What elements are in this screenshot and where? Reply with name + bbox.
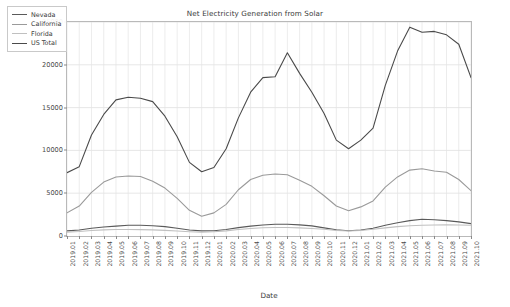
x-tick-label: 2020.12 — [351, 241, 358, 267]
x-tick-label: 2020.03 — [241, 241, 248, 267]
chart-title: Net Electricity Generation from Solar — [33, 9, 477, 18]
x-tick-label: 2020.06 — [278, 241, 285, 267]
x-tick-label: 2020.04 — [253, 241, 260, 267]
x-tick-mark — [128, 236, 129, 239]
legend-color-swatch — [12, 24, 27, 25]
x-tick-mark — [189, 236, 190, 239]
x-tick-label: 2020.08 — [302, 241, 309, 267]
x-tick-label: 2021.08 — [449, 241, 456, 267]
x-tick-label: 2021.02 — [375, 241, 382, 267]
series-lines — [67, 22, 471, 236]
y-tick-mark — [64, 107, 67, 108]
legend-item[interactable]: US Total — [12, 39, 61, 49]
x-tick-label: 2021.09 — [461, 241, 468, 267]
x-tick-mark — [140, 236, 141, 239]
legend-color-swatch — [12, 43, 27, 44]
x-tick-label: 2019.11 — [192, 241, 199, 267]
legend-item[interactable]: California — [12, 20, 61, 30]
x-tick-mark — [104, 236, 105, 239]
x-tick-mark — [153, 236, 154, 239]
legend-label: California — [31, 20, 61, 28]
x-tick-mark — [471, 236, 472, 239]
chart-legend: NevadaCaliforniaFloridaUS Total — [7, 6, 67, 52]
x-tick-mark — [177, 236, 178, 239]
x-tick-label: 2019.06 — [131, 241, 138, 267]
series-line — [67, 225, 471, 232]
x-tick-mark — [324, 236, 325, 239]
y-tick-label: 20000 — [42, 61, 63, 69]
series-line — [67, 27, 471, 173]
x-tick-label: 2019.02 — [82, 241, 89, 267]
x-tick-label: 2019.12 — [204, 241, 211, 267]
x-tick-mark — [349, 236, 350, 239]
legend-item[interactable]: Nevada — [12, 10, 61, 20]
x-tick-label: 2020.11 — [339, 241, 346, 267]
legend-item[interactable]: Florida — [12, 29, 61, 39]
x-tick-mark — [67, 236, 68, 239]
x-tick-mark — [287, 236, 288, 239]
x-tick-label: 2019.07 — [143, 241, 150, 267]
x-tick-mark — [385, 236, 386, 239]
x-tick-label: 2019.08 — [155, 241, 162, 267]
legend-color-swatch — [12, 14, 27, 15]
x-tick-mark — [238, 236, 239, 239]
x-tick-mark — [336, 236, 337, 239]
x-tick-label: 2020.01 — [216, 241, 223, 267]
legend-label: US Total — [31, 39, 57, 47]
x-tick-mark — [398, 236, 399, 239]
y-tick-label: 10000 — [42, 146, 63, 154]
x-tick-label: 2021.07 — [437, 241, 444, 267]
x-tick-label: 2021.05 — [412, 241, 419, 267]
x-tick-label: 2019.10 — [180, 241, 187, 267]
x-tick-mark — [422, 236, 423, 239]
x-tick-mark — [263, 236, 264, 239]
x-tick-mark — [361, 236, 362, 239]
x-tick-mark — [116, 236, 117, 239]
x-tick-mark — [410, 236, 411, 239]
plot-area: 0500010000150002000025000 2019.012019.02… — [66, 21, 472, 237]
y-tick-label: 15000 — [42, 104, 63, 112]
x-tick-mark — [91, 236, 92, 239]
x-tick-label: 2021.03 — [388, 241, 395, 267]
x-tick-mark — [434, 236, 435, 239]
x-tick-mark — [251, 236, 252, 239]
x-tick-label: 2020.05 — [265, 241, 272, 267]
x-tick-label: 2021.01 — [363, 241, 370, 267]
x-tick-mark — [373, 236, 374, 239]
x-tick-label: 2021.10 — [473, 241, 480, 267]
x-tick-mark — [312, 236, 313, 239]
y-tick-label: 5000 — [46, 189, 63, 197]
x-tick-label: 2019.09 — [167, 241, 174, 267]
x-tick-mark — [300, 236, 301, 239]
x-tick-label: 2019.04 — [106, 241, 113, 267]
series-line — [67, 169, 471, 217]
y-tick-mark — [64, 150, 67, 151]
x-tick-label: 2021.06 — [424, 241, 431, 267]
x-tick-mark — [226, 236, 227, 239]
x-tick-label: 2020.02 — [229, 241, 236, 267]
x-tick-mark — [202, 236, 203, 239]
y-tick-mark — [64, 193, 67, 194]
x-axis-label: Date — [66, 291, 472, 300]
legend-label: Nevada — [31, 11, 55, 19]
x-tick-label: 2019.05 — [118, 241, 125, 267]
x-tick-label: 2021.04 — [400, 241, 407, 267]
x-tick-mark — [459, 236, 460, 239]
x-tick-mark — [275, 236, 276, 239]
x-tick-label: 2019.01 — [69, 241, 76, 267]
legend-label: Florida — [31, 30, 53, 38]
x-tick-label: 2020.10 — [326, 241, 333, 267]
solar-generation-chart: Net Electricity Generation from Solar GW… — [0, 0, 510, 307]
x-tick-label: 2019.03 — [94, 241, 101, 267]
x-tick-mark — [79, 236, 80, 239]
y-tick-mark — [64, 64, 67, 65]
y-tick-label: 0 — [59, 232, 63, 240]
x-tick-label: 2020.09 — [314, 241, 321, 267]
x-tick-mark — [214, 236, 215, 239]
x-tick-label: 2020.07 — [290, 241, 297, 267]
x-tick-mark — [447, 236, 448, 239]
legend-color-swatch — [12, 33, 27, 34]
x-tick-mark — [165, 236, 166, 239]
